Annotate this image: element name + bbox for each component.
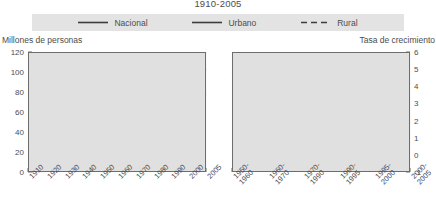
y-tick-label: 100	[11, 68, 24, 77]
y-tick-label: 6	[414, 48, 418, 57]
y-tick-label: 5	[414, 65, 418, 74]
legend-swatch-dashed-icon	[301, 19, 331, 26]
y-tick-label: 4	[414, 82, 418, 91]
y-tick-label: 80	[15, 88, 24, 97]
chart-panel-poblacion: 0204060801001201910192019301940195019601…	[28, 52, 206, 172]
chart-title: 1910-2005	[0, 0, 436, 9]
left-axis-caption: Millones de personas	[2, 35, 82, 45]
y-tick-label: 20	[15, 148, 24, 157]
x-tick-label: 2005	[206, 163, 223, 180]
legend-item-nacional: Nacional	[78, 18, 147, 28]
x-tick-label: 2000-2005	[410, 161, 435, 186]
y-tick-label: 3	[414, 99, 418, 108]
legend-label-rural: Rural	[337, 18, 357, 28]
y-tick-label: 60	[15, 108, 24, 117]
chart-panel-tasa: -101234561950-19601960-19701970-19901990…	[232, 52, 410, 172]
legend-label-urbano: Urbano	[228, 18, 256, 28]
chart-page: 1910-2005 Nacional Urbano Rural	[0, 0, 436, 220]
legend-item-urbano: Urbano	[192, 18, 256, 28]
right-axis-caption: Tasa de crecimiento	[359, 35, 435, 45]
plot-area-right	[232, 52, 410, 172]
y-tick-label: 120	[11, 48, 24, 57]
legend-swatch-solid-icon	[192, 19, 222, 26]
plot-area-left	[28, 52, 206, 172]
legend-swatch-solid-icon	[78, 19, 108, 26]
y-tick-label: 2	[414, 116, 418, 125]
legend-label-nacional: Nacional	[114, 18, 147, 28]
y-tick-label: 40	[15, 128, 24, 137]
y-tick-label: 0	[414, 150, 418, 159]
chart-legend: Nacional Urbano Rural	[32, 14, 404, 31]
y-tick-label: 1	[414, 133, 418, 142]
y-tick-label: 0	[20, 168, 24, 177]
legend-item-rural: Rural	[301, 18, 357, 28]
